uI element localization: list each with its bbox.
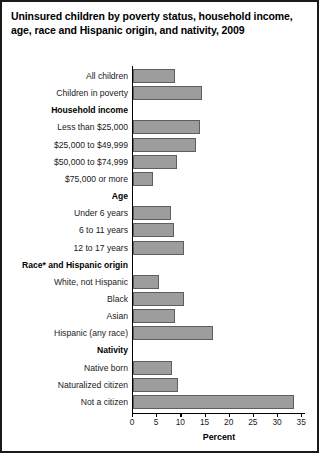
bar: [133, 172, 153, 186]
bar-row: Under 6 years: [133, 206, 171, 220]
bar-row: $50,000 to $74,999: [133, 155, 177, 169]
bar-row: $25,000 to $49,999: [133, 138, 196, 152]
bar-label: All children: [86, 69, 128, 83]
bar-label: Under 6 years: [74, 206, 128, 220]
bar-row: 12 to 17 years: [133, 241, 184, 255]
bar-label: 6 to 11 years: [79, 223, 128, 237]
bar-row: Children in poverty: [133, 86, 202, 100]
bar: [133, 241, 184, 255]
bar-label: $75,000 or more: [65, 172, 128, 186]
bar: [133, 275, 159, 289]
x-tick-label: 15: [200, 417, 209, 427]
x-tick-label: 35: [297, 417, 306, 427]
bar-label: $50,000 to $74,999: [54, 155, 128, 169]
bar: [133, 326, 213, 340]
bar: [133, 206, 171, 220]
category-header-label: Race* and Hispanic origin: [22, 258, 128, 272]
bar-row: Naturalized citizen: [133, 378, 178, 392]
bar-row: White, not Hispanic: [133, 275, 159, 289]
bar-row: Not a citizen: [133, 395, 294, 409]
bar-row: Black: [133, 292, 184, 306]
bar: [133, 292, 184, 306]
bar-row: 6 to 11 years: [133, 223, 174, 237]
bar: [133, 155, 177, 169]
x-tick-label: 10: [176, 417, 185, 427]
bar-label: Asian: [107, 309, 129, 323]
bar: [133, 120, 200, 134]
bar-label: Not a citizen: [81, 395, 128, 409]
category-header-label: Age: [112, 189, 128, 203]
bar-rows: All childrenChildren in povertyHousehold…: [133, 66, 306, 413]
category-header-label: Nativity: [97, 343, 128, 357]
bar: [133, 361, 172, 375]
bar-row: $75,000 or more: [133, 172, 153, 186]
x-tick-label: 5: [154, 417, 159, 427]
bar: [133, 309, 175, 323]
x-tick-label: 0: [130, 417, 135, 427]
chart-figure: Uninsured children by poverty status, ho…: [0, 0, 319, 453]
bar-row: All children: [133, 69, 175, 83]
bar-label: Naturalized citizen: [58, 378, 128, 392]
bar-label: Children in poverty: [56, 86, 128, 100]
x-axis-line: [132, 413, 305, 414]
bar: [133, 138, 196, 152]
bar-row: Native born: [133, 361, 172, 375]
x-tick-label: 25: [248, 417, 257, 427]
bar: [133, 223, 174, 237]
bar: [133, 69, 175, 83]
bar: [133, 86, 202, 100]
bar-label: White, not Hispanic: [54, 275, 128, 289]
bar-label: Hispanic (any race): [54, 326, 128, 340]
bar-row: Asian: [133, 309, 175, 323]
x-tick-label: 20: [224, 417, 233, 427]
x-axis-label: Percent: [132, 432, 306, 442]
bar-row: Hispanic (any race): [133, 326, 213, 340]
bar: [133, 378, 178, 392]
chart-title: Uninsured children by poverty status, ho…: [11, 10, 309, 37]
bar-row: Less than $25,000: [133, 120, 200, 134]
x-tick-label: 30: [272, 417, 281, 427]
bar-label: Less than $25,000: [57, 120, 128, 134]
bar-label: Black: [107, 292, 128, 306]
bar-label: Native born: [84, 361, 128, 375]
plot-area: All childrenChildren in povertyHousehold…: [132, 66, 306, 413]
category-header-label: Household income: [51, 103, 128, 117]
bar-label: 12 to 17 years: [74, 241, 128, 255]
bar: [133, 395, 294, 409]
bar-label: $25,000 to $49,999: [54, 138, 128, 152]
